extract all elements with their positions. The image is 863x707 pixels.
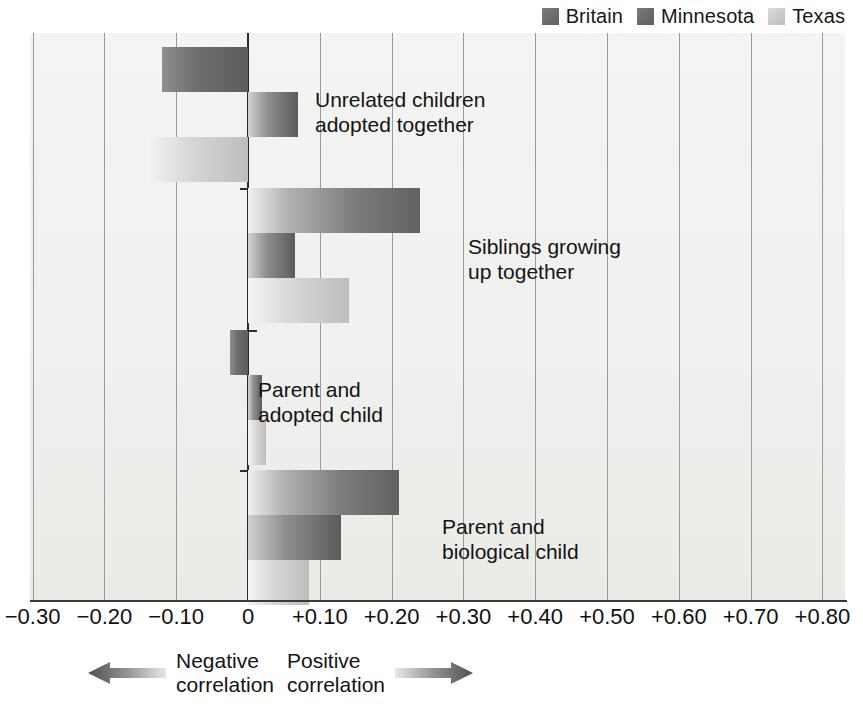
x-tick-label-010: −0.10: [148, 604, 204, 630]
legend-swatch-minnesota: [637, 8, 654, 25]
bar-britain-group-3[interactable]: [230, 330, 248, 375]
x-tick-label-060: +0.60: [651, 604, 707, 630]
negative-correlation-label: Negative correlation: [176, 649, 274, 698]
gridline-010: [176, 33, 177, 600]
left-arrow-icon: [88, 662, 166, 684]
correlation-key: Negative correlation Positive correlatio…: [0, 645, 863, 707]
x-axis-tick-labels: −0.30−0.20−0.100+0.10+0.20+0.30+0.40+0.5…: [0, 604, 863, 638]
gridline-020: [104, 33, 105, 600]
x-tick-label-010: +0.10: [292, 604, 348, 630]
bar-texas-group-2[interactable]: [248, 278, 349, 323]
chart-root: Britain Minnesota Texas Unrelated childr…: [0, 0, 863, 707]
positive-correlation-label: Positive correlation: [287, 649, 385, 698]
x-tick-label-020: −0.20: [77, 604, 133, 630]
group-label-1: Unrelated children adopted together: [315, 88, 485, 137]
legend-label-minnesota: Minnesota: [661, 5, 754, 28]
plot-area: Unrelated children adopted togetherSibli…: [30, 33, 845, 600]
x-tick-label-070: +0.70: [723, 604, 779, 630]
chart-legend: Britain Minnesota Texas: [0, 0, 863, 33]
bar-texas-group-1[interactable]: [147, 137, 248, 182]
bar-britain-group-2[interactable]: [248, 188, 420, 233]
positive-correlation-key: Positive correlation: [287, 649, 473, 698]
legend-item-texas[interactable]: Texas: [768, 5, 845, 28]
legend-item-minnesota[interactable]: Minnesota: [637, 5, 754, 28]
gridline-080: [822, 33, 823, 600]
gridline-030: [33, 33, 34, 600]
gridline-050: [607, 33, 608, 600]
bar-minnesota-group-2[interactable]: [248, 233, 295, 278]
x-tick-label-030: +0.30: [436, 604, 492, 630]
group-label-4: Parent and biological child: [442, 515, 579, 564]
right-arrow-icon: [395, 662, 473, 684]
x-tick-label-020: +0.20: [364, 604, 420, 630]
bar-minnesota-group-1[interactable]: [248, 92, 298, 137]
bar-britain-group-4[interactable]: [248, 470, 399, 515]
bar-texas-group-4[interactable]: [248, 560, 309, 605]
x-tick-label-050: +0.50: [579, 604, 635, 630]
group-label-3: Parent and adopted child: [258, 378, 383, 427]
legend-swatch-britain: [542, 8, 559, 25]
negative-correlation-key: Negative correlation: [88, 649, 274, 698]
x-tick-label-040: +0.40: [507, 604, 563, 630]
legend-label-britain: Britain: [566, 5, 623, 28]
x-axis-line: [30, 600, 847, 602]
legend-item-britain[interactable]: Britain: [542, 5, 623, 28]
bar-britain-group-1[interactable]: [162, 47, 248, 92]
x-tick-label-080: +0.80: [795, 604, 851, 630]
x-tick-label-0: 0: [242, 604, 254, 630]
bar-minnesota-group-4[interactable]: [248, 515, 341, 560]
x-tick-label-030: −0.30: [5, 604, 61, 630]
legend-swatch-texas: [768, 8, 785, 25]
gridline-070: [751, 33, 752, 600]
gridline-060: [679, 33, 680, 600]
group-label-2: Siblings growing up together: [468, 235, 621, 284]
legend-label-texas: Texas: [792, 5, 845, 28]
